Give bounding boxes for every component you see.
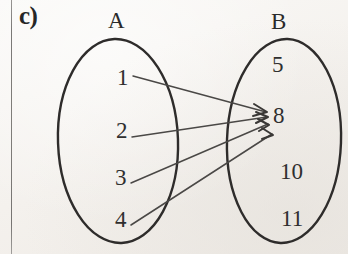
arrow-head-4-to-8 bbox=[262, 128, 273, 139]
set-member-b-10: 10 bbox=[280, 160, 303, 183]
set-member-b-8: 8 bbox=[273, 104, 285, 127]
mapping-line-3-to-8 bbox=[131, 124, 268, 183]
figure-canvas: c) A B 1 2 3 4 5 8 10 11 bbox=[0, 0, 348, 254]
set-member-a-2: 2 bbox=[116, 119, 128, 142]
mapping-line-4-to-8 bbox=[131, 134, 272, 225]
mapping-line-2-to-8 bbox=[132, 117, 267, 137]
set-member-a-3: 3 bbox=[115, 166, 127, 189]
set-member-b-11: 11 bbox=[281, 207, 303, 230]
set-member-a-4: 4 bbox=[115, 208, 127, 231]
set-member-a-1: 1 bbox=[117, 66, 129, 89]
set-member-b-5: 5 bbox=[272, 53, 284, 76]
mapping-line-1-to-8 bbox=[133, 76, 266, 112]
